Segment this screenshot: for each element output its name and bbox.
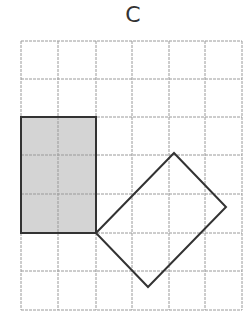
rotated-rectangle — [96, 153, 226, 287]
grid-figure — [0, 0, 247, 323]
